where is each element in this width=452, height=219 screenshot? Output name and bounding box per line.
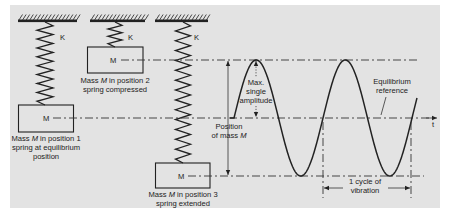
mass-1-symbol: M (43, 114, 49, 123)
ceiling-3-hatching (156, 15, 210, 21)
hatch-mark (59, 15, 63, 21)
mass-1-caption-line3: position (33, 152, 59, 161)
spring-mass-diagram: K K K M M M Mass M in position 1 spring … (0, 0, 452, 219)
hatch-mark (123, 15, 127, 21)
hatch-mark (163, 15, 167, 21)
hatch-mark (145, 15, 149, 21)
hatch-mark (170, 15, 174, 21)
hatch-mark (23, 15, 27, 21)
hatch-mark (26, 15, 30, 21)
hatch-mark (98, 15, 102, 21)
spring-2-constant-label: K (128, 33, 133, 42)
hatch-mark (95, 15, 99, 21)
hatch-mark (141, 15, 145, 21)
equilibrium-pointer (381, 97, 386, 115)
hatch-mark (199, 15, 203, 21)
ceiling-2-hatching (91, 15, 149, 21)
spring-3-constant-label: K (194, 33, 199, 42)
hatch-mark (48, 15, 52, 21)
ceiling-1 (18, 15, 80, 23)
equilibrium-label-line1: Equilibrium (373, 77, 411, 86)
hatch-mark (131, 15, 135, 21)
hatch-mark (185, 15, 189, 21)
hatch-mark (188, 15, 192, 21)
mass-1-caption-line1: Mass M in position 1 (11, 134, 80, 143)
hatch-mark (120, 15, 124, 21)
mass-3-caption-line1: Mass M in position 3 (148, 190, 217, 199)
hatch-mark (127, 15, 131, 21)
spring-1-constant-label: K (60, 33, 65, 42)
hatch-mark (44, 15, 48, 21)
cycle-label-line1: 1 cycle of (349, 177, 382, 186)
hatch-mark (102, 15, 106, 21)
mass-2-symbol: M (110, 56, 116, 65)
mass-3-symbol: M (178, 172, 184, 181)
hatch-mark (206, 15, 210, 21)
hatch-mark (66, 15, 70, 21)
hatch-mark (203, 15, 207, 21)
hatch-mark (91, 15, 95, 21)
hatch-mark (37, 15, 41, 21)
hatch-mark (167, 15, 171, 21)
hatch-mark (41, 15, 45, 21)
hatch-mark (30, 15, 34, 21)
hatch-mark (156, 15, 160, 21)
hatch-mark (77, 15, 81, 21)
max-amplitude-label-line1: Max. (248, 78, 264, 87)
hatch-mark (116, 15, 120, 21)
hatch-mark (73, 15, 77, 21)
hatch-mark (138, 15, 142, 21)
hatch-mark (69, 15, 73, 21)
hatch-mark (178, 15, 182, 21)
max-amplitude-label-line2: single (246, 87, 266, 96)
spring-1 (37, 22, 53, 105)
ceiling-1-hatching (19, 15, 80, 21)
equilibrium-label-line2: reference (376, 86, 408, 95)
hatch-mark (55, 15, 59, 21)
cycle-label-line2: vibration (351, 186, 380, 195)
hatch-mark (174, 15, 178, 21)
mass-2-caption-line1: Mass M in position 2 (80, 76, 149, 85)
max-amplitude-label-line3: amplitude (240, 96, 273, 105)
hatch-mark (181, 15, 185, 21)
hatch-mark (33, 15, 37, 21)
hatch-mark (160, 15, 164, 21)
ceiling-3 (155, 15, 210, 23)
hatch-mark (51, 15, 55, 21)
spring-2 (108, 22, 122, 47)
hatch-mark (192, 15, 196, 21)
hatch-mark (134, 15, 138, 21)
mass-2-caption-line2: spring compressed (83, 85, 147, 94)
spring-3 (176, 22, 191, 163)
position-label-line1: Position (215, 122, 242, 131)
mass-1-caption-line2: spring at equilibrium (12, 143, 80, 152)
ceiling-2 (90, 15, 149, 23)
hatch-mark (62, 15, 65, 21)
hatch-mark (113, 15, 117, 21)
ceiling-1-bar (18, 20, 77, 23)
hatch-mark (109, 15, 113, 21)
position-label-line2: of mass M (211, 131, 247, 140)
hatch-mark (19, 15, 23, 21)
hatch-mark (105, 15, 109, 21)
mass-3-caption-line2: spring extended (156, 199, 210, 208)
hatch-mark (196, 15, 200, 21)
time-axis-label: t (432, 120, 435, 129)
